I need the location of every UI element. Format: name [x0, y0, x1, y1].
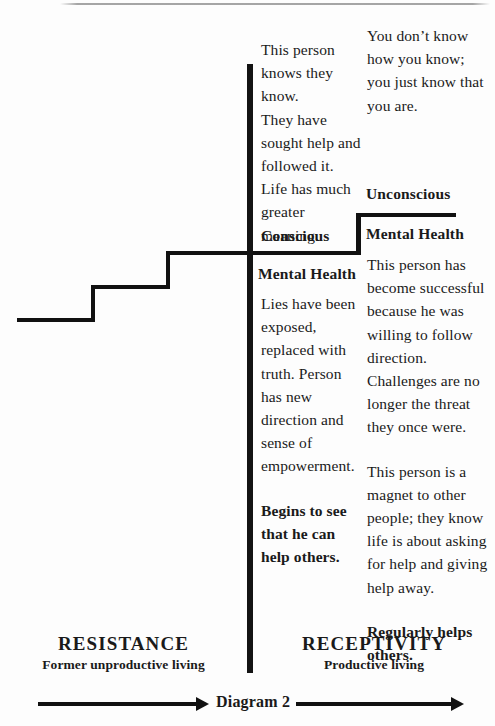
label-conscious: Conscious	[261, 226, 330, 246]
right-paragraph-2: This person has become successful becaus…	[367, 253, 491, 439]
arrow-right-head	[451, 697, 464, 711]
middle-paragraph-3: Begins to see that he can help others.	[261, 499, 361, 569]
right-text-block-upper: You don’t know how you know; you just kn…	[367, 24, 491, 117]
right-paragraph-1: You don’t know how you know; you just kn…	[367, 24, 491, 117]
staircase-tread-3b	[251, 251, 361, 255]
diagram-canvas: This person knows they know. They have s…	[0, 0, 495, 726]
right-paragraph-3: This person is a magnet to other people;…	[367, 460, 491, 599]
staircase-tread-1	[17, 318, 95, 322]
footer-heading-receptivity: RECEPTIVITY	[253, 633, 495, 655]
staircase-tread-4	[356, 213, 456, 217]
arrow-left-shaft	[38, 702, 198, 706]
middle-paragraph-1: This person knows they know. They have s…	[261, 38, 361, 247]
central-divider-bar	[247, 64, 253, 673]
arrow-left-head	[196, 697, 209, 711]
label-unconscious: Unconscious	[366, 184, 450, 204]
page-top-rule	[60, 3, 490, 5]
staircase-tread-3	[166, 251, 253, 255]
footer-subheading-receptivity: Productive living	[253, 657, 495, 673]
label-mental-health-left: Mental Health	[258, 264, 356, 284]
label-mental-health-right: Mental Health	[366, 224, 464, 244]
middle-text-block-lower: Lies have been exposed, replaced with tr…	[261, 292, 361, 568]
staircase-riser-2	[166, 251, 170, 289]
arrow-right-shaft	[296, 702, 453, 706]
footer-heading-resistance: RESISTANCE	[0, 633, 247, 655]
diagram-caption: Diagram 2	[216, 693, 290, 711]
staircase-tread-2	[91, 285, 170, 289]
middle-paragraph-2: Lies have been exposed, replaced with tr…	[261, 292, 361, 478]
staircase-riser-1	[91, 285, 95, 322]
middle-text-block-upper: This person knows they know. They have s…	[261, 38, 361, 247]
footer-subheading-resistance: Former unproductive living	[0, 657, 247, 673]
right-text-block-lower: This person has become successful becaus…	[367, 253, 491, 666]
